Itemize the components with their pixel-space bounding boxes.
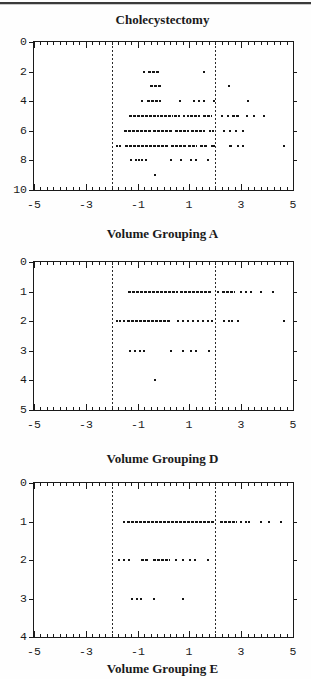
x-minor-tick	[222, 262, 223, 265]
x-minor-tick	[248, 483, 249, 486]
x-minor-tick	[202, 262, 203, 265]
x-tick-label: -1	[123, 418, 153, 431]
x-minor-tick	[73, 42, 74, 45]
x-major-tick	[34, 404, 35, 410]
data-segment	[171, 145, 186, 147]
y-tick	[29, 522, 33, 523]
data-point	[263, 115, 265, 117]
data-point	[207, 559, 209, 561]
x-minor-tick	[235, 262, 236, 265]
x-minor-tick	[254, 42, 255, 45]
x-minor-tick	[53, 187, 54, 190]
x-minor-tick	[118, 42, 119, 45]
data-point	[242, 130, 244, 132]
plot-volume-grouping-a: 0246810-5-3-1135	[33, 41, 294, 191]
x-minor-tick	[47, 634, 48, 637]
x-minor-tick	[105, 407, 106, 410]
x-tick-label: 3	[226, 418, 256, 431]
x-minor-tick	[144, 407, 145, 410]
right-y-tick	[293, 131, 297, 132]
data-point	[180, 159, 182, 161]
x-major-tick	[241, 631, 242, 637]
x-minor-tick	[157, 42, 158, 45]
x-minor-tick	[209, 42, 210, 45]
x-minor-tick	[79, 483, 80, 486]
data-segment	[153, 130, 172, 132]
x-minor-tick	[164, 262, 165, 265]
data-point	[260, 291, 262, 293]
x-minor-tick	[274, 634, 275, 637]
data-segment	[124, 130, 151, 132]
x-minor-tick	[287, 483, 288, 486]
x-minor-tick	[170, 187, 171, 190]
x-minor-tick	[267, 187, 268, 190]
x-tick-label: 1	[174, 418, 204, 431]
x-minor-tick	[183, 634, 184, 637]
x-minor-tick	[66, 483, 67, 486]
data-segment	[191, 130, 205, 132]
x-minor-tick	[131, 187, 132, 190]
x-tick-label: 5	[278, 198, 308, 211]
right-y-tick	[293, 522, 297, 523]
x-major-tick	[241, 404, 242, 410]
x-major-tick	[189, 42, 190, 48]
x-minor-tick	[280, 187, 281, 190]
data-point	[283, 145, 285, 147]
x-minor-tick	[248, 407, 249, 410]
x-minor-tick	[183, 262, 184, 265]
x-major-tick	[34, 631, 35, 637]
x-minor-tick	[53, 483, 54, 486]
y-tick-label: 4	[3, 94, 27, 108]
x-minor-tick	[53, 262, 54, 265]
x-minor-tick	[118, 407, 119, 410]
x-minor-tick	[209, 407, 210, 410]
x-minor-tick	[144, 262, 145, 265]
y-tick-label: 3	[3, 592, 27, 606]
data-point	[247, 100, 249, 102]
data-point	[123, 559, 125, 561]
x-minor-tick	[170, 262, 171, 265]
x-minor-tick	[92, 187, 93, 190]
x-minor-tick	[60, 634, 61, 637]
x-minor-tick	[183, 187, 184, 190]
x-minor-tick	[254, 483, 255, 486]
data-segment	[190, 115, 200, 117]
x-minor-tick	[222, 42, 223, 45]
x-minor-tick	[79, 262, 80, 265]
data-point	[221, 115, 223, 117]
reference-vline	[112, 42, 113, 190]
x-major-tick	[189, 631, 190, 637]
x-minor-tick	[280, 42, 281, 45]
x-minor-tick	[73, 407, 74, 410]
x-minor-tick	[287, 407, 288, 410]
y-tick	[29, 560, 33, 561]
x-minor-tick	[196, 187, 197, 190]
x-minor-tick	[261, 42, 262, 45]
x-minor-tick	[73, 187, 74, 190]
x-minor-tick	[125, 483, 126, 486]
x-major-tick	[189, 184, 190, 190]
x-major-tick	[293, 631, 294, 637]
x-minor-tick	[254, 187, 255, 190]
x-minor-tick	[92, 634, 93, 637]
data-point	[177, 320, 179, 322]
data-point	[145, 159, 147, 161]
data-segment	[175, 130, 189, 132]
data-point	[187, 115, 189, 117]
x-minor-tick	[118, 634, 119, 637]
y-tick	[29, 190, 33, 191]
data-point	[139, 350, 141, 352]
y-tick-label: 2	[3, 553, 27, 567]
data-point	[175, 559, 177, 561]
x-minor-tick	[280, 262, 281, 265]
x-minor-tick	[287, 634, 288, 637]
x-minor-tick	[164, 187, 165, 190]
data-point	[250, 291, 252, 293]
x-minor-tick	[99, 407, 100, 410]
data-point	[195, 159, 197, 161]
x-minor-tick	[144, 634, 145, 637]
data-point	[268, 521, 270, 523]
data-point	[170, 159, 172, 161]
x-minor-tick	[40, 483, 41, 486]
x-minor-tick	[228, 187, 229, 190]
